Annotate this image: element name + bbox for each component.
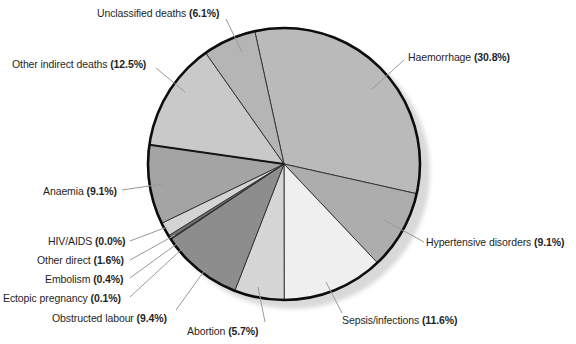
slice-percent: (12.5%)	[110, 58, 146, 70]
leader-line-embolism	[130, 243, 178, 278]
slice-name: Hypertensive disorders	[426, 236, 531, 248]
slice-name: Embolism	[45, 273, 90, 285]
slice-percent: (0.4%)	[93, 273, 123, 285]
label-unclassified: Unclassified deaths (6.1%)	[97, 7, 219, 20]
slice-name: Sepsis/infections	[342, 314, 419, 326]
slice-percent: (9.4%)	[137, 312, 167, 324]
label-ectopic-pregnancy: Ectopic pregnancy (0.1%)	[3, 292, 121, 305]
slice-name: Ectopic pregnancy	[3, 292, 88, 304]
label-anaemia: Anaemia (9.1%)	[43, 185, 117, 198]
slice-name: Anaemia	[43, 185, 84, 197]
slice-percent: (1.6%)	[93, 254, 123, 266]
slice-percent: (11.6%)	[422, 314, 458, 326]
slice-percent: (5.7%)	[228, 325, 258, 337]
slice-name: Abortion	[187, 325, 225, 337]
label-hiv-aids: HIV/AIDS (0.0%)	[48, 235, 125, 248]
slice-name: Haemorrhage	[408, 51, 471, 63]
slice-name: HIV/AIDS	[48, 235, 92, 247]
leader-line-obstructed_labour	[176, 267, 207, 310]
slice-percent: (0.0%)	[95, 235, 125, 247]
label-obstructed-labour: Obstructed labour (9.4%)	[52, 312, 167, 325]
slice-name: Obstructed labour	[52, 312, 134, 324]
label-hypertensive-disorders: Hypertensive disorders (9.1%)	[426, 236, 564, 249]
maternal-deaths-pie-figure: Unclassified deaths (6.1%) Other indirec…	[0, 0, 576, 344]
label-abortion: Abortion (5.7%)	[187, 325, 258, 338]
slice-percent: (30.8%)	[474, 51, 510, 63]
slice-percent: (6.1%)	[189, 7, 219, 19]
slice-name: Other indirect deaths	[12, 58, 107, 70]
slice-percent: (9.1%)	[534, 236, 564, 248]
slice-percent: (0.1%)	[91, 292, 121, 304]
slice-name: Unclassified deaths	[97, 7, 186, 19]
leader-line-hiv_aids	[130, 227, 167, 241]
label-other-direct: Other direct (1.6%)	[37, 254, 124, 267]
label-embolism: Embolism (0.4%)	[45, 273, 123, 286]
label-other-indirect: Other indirect deaths (12.5%)	[12, 58, 146, 71]
slice-percent: (9.1%)	[87, 185, 117, 197]
label-haemorrhage: Haemorrhage (30.8%)	[408, 51, 510, 64]
slice-name: Other direct	[37, 254, 91, 266]
label-sepsis-infections: Sepsis/infections (11.6%)	[342, 314, 457, 327]
